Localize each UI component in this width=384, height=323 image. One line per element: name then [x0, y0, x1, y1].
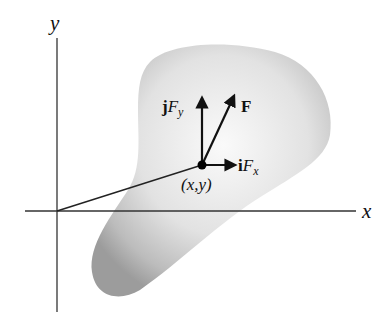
rigid-body-shape: [92, 45, 331, 297]
y-axis-label: y: [48, 11, 60, 35]
point-label: (x,y): [181, 175, 212, 194]
resultant-force-label: F: [241, 97, 251, 116]
application-point: [198, 161, 207, 170]
force-diagram: y x (x,y) F jFy iFx: [0, 0, 384, 323]
x-axis-label: x: [361, 199, 372, 223]
